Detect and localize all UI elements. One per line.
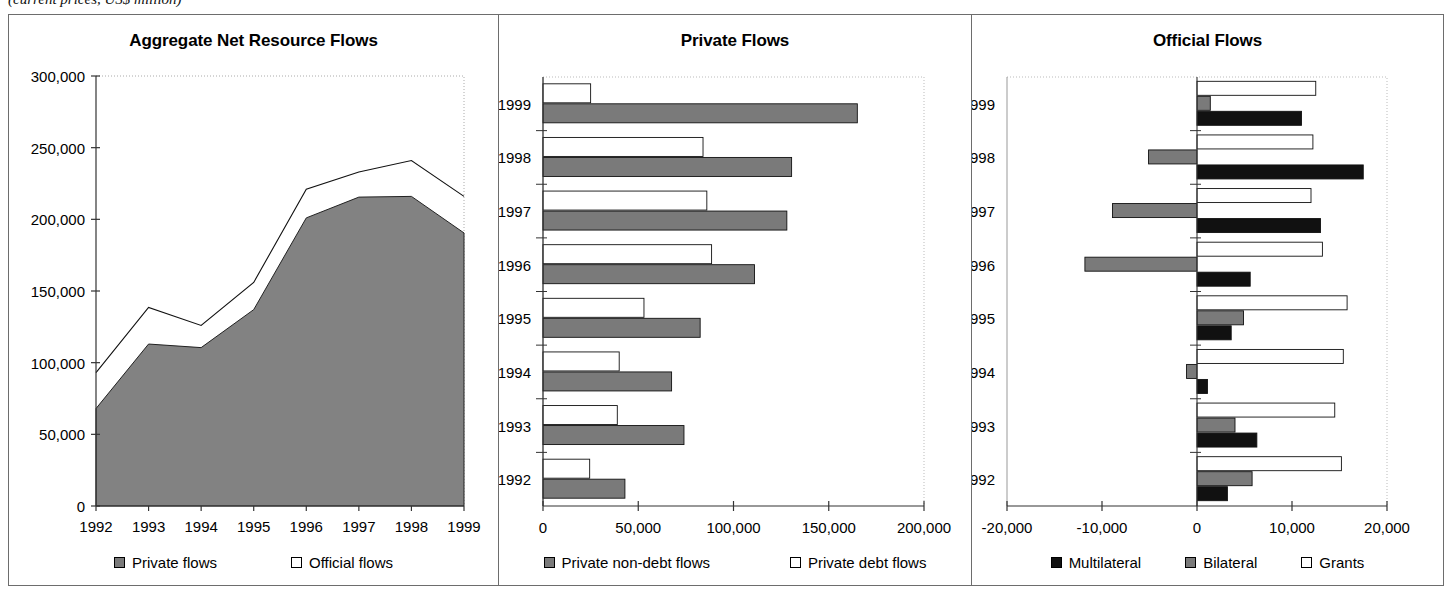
category-label: 1992 <box>499 471 531 488</box>
swatch-black-icon <box>1051 557 1062 568</box>
x-tick-label: 1999 <box>447 518 480 535</box>
legend-label: Private flows <box>132 554 217 571</box>
legend-item-bilateral: Bilateral <box>1185 554 1257 571</box>
bar-private-debt-flows <box>543 406 617 425</box>
bar-private-non-debt-flows <box>543 318 700 337</box>
bar-multilateral <box>1197 111 1302 125</box>
legend-item-private-debt-flows: Private debt flows <box>790 554 926 571</box>
bar-multilateral <box>1197 165 1363 179</box>
category-label: 1997 <box>972 203 995 220</box>
bar-multilateral <box>1197 433 1257 447</box>
bar-grants <box>1197 349 1343 363</box>
x-tick-label: 20,000 <box>1364 519 1410 536</box>
panel-aggregate-net-resource-flows: Aggregate Net Resource Flows 050,000100,… <box>8 14 498 586</box>
category-label: 1999 <box>499 96 531 113</box>
x-tick-label: 1994 <box>184 518 217 535</box>
bar-grants <box>1197 403 1335 417</box>
x-tick-label: 1996 <box>290 518 323 535</box>
bar-private-non-debt-flows <box>543 265 754 284</box>
x-tick-label: -20,000 <box>982 519 1033 536</box>
x-tick-label: 0 <box>539 519 547 536</box>
category-label: 1994 <box>972 364 995 381</box>
bar-bilateral <box>1149 150 1197 164</box>
x-tick-label: 150,000 <box>802 519 856 536</box>
chart-panels: Aggregate Net Resource Flows 050,000100,… <box>8 14 1444 586</box>
y-tick-label: 0 <box>77 498 85 515</box>
bar-private-debt-flows <box>543 137 703 156</box>
bar-multilateral <box>1197 487 1227 501</box>
bar-grants <box>1197 457 1341 471</box>
figure-page: (current prices, US$ million) Aggregate … <box>0 0 1451 589</box>
bar-private-non-debt-flows <box>543 372 672 391</box>
legend-label: Private debt flows <box>808 554 926 571</box>
bar-private-debt-flows <box>543 84 591 103</box>
category-label: 1994 <box>499 364 531 381</box>
bar-multilateral <box>1197 379 1207 393</box>
x-tick-label: 50,000 <box>615 519 661 536</box>
bar-multilateral <box>1197 219 1321 233</box>
x-tick-label: -10,000 <box>1077 519 1128 536</box>
bar-private-non-debt-flows <box>543 157 792 176</box>
x-tick-label: 100,000 <box>706 519 760 536</box>
chart-private-flows-bars: 19921993199419951996199719981999050,0001… <box>499 15 971 587</box>
y-tick-label: 250,000 <box>31 140 85 157</box>
bar-multilateral <box>1197 326 1231 340</box>
x-tick-label: 1993 <box>132 518 165 535</box>
y-tick-label: 200,000 <box>31 211 85 228</box>
bar-bilateral <box>1197 472 1252 486</box>
bar-grants <box>1197 189 1311 203</box>
legend-item-multilateral: Multilateral <box>1051 554 1142 571</box>
bar-bilateral <box>1085 257 1197 271</box>
swatch-white-icon <box>790 557 801 568</box>
y-tick-label: 100,000 <box>31 355 85 372</box>
legend-label: Official flows <box>309 554 393 571</box>
category-label: 1995 <box>499 310 531 327</box>
bar-private-non-debt-flows <box>543 426 684 445</box>
legend-2: Private non-debt flows Private debt flow… <box>499 554 971 571</box>
bar-bilateral <box>1197 418 1235 432</box>
y-tick-label: 300,000 <box>31 68 85 85</box>
category-label: 1993 <box>972 418 995 435</box>
x-tick-label: 10,000 <box>1269 519 1315 536</box>
category-label: 1993 <box>499 418 531 435</box>
category-label: 1999 <box>972 96 995 113</box>
chart-official-flows-bars: 19921993199419951996199719981999-20,000-… <box>972 15 1444 587</box>
legend-item-private-flows: Private flows <box>114 554 217 571</box>
bar-private-non-debt-flows <box>543 479 625 498</box>
chart-area-chart: 050,000100,000150,000200,000250,000300,0… <box>9 15 498 587</box>
legend-label: Private non-debt flows <box>562 554 710 571</box>
y-tick-label: 50,000 <box>39 426 85 443</box>
category-label: 1992 <box>972 471 995 488</box>
x-tick-label: 1997 <box>342 518 375 535</box>
bar-grants <box>1197 81 1316 95</box>
swatch-gray-icon <box>114 557 125 568</box>
swatch-gray-icon <box>1185 557 1196 568</box>
legend-label: Grants <box>1319 554 1364 571</box>
x-tick-label: 1995 <box>237 518 270 535</box>
panel-private-flows: Private Flows 19921993199419951996199719… <box>498 14 971 586</box>
bar-grants <box>1197 296 1347 310</box>
swatch-gray-icon <box>544 557 555 568</box>
legend-item-grants: Grants <box>1301 554 1364 571</box>
y-tick-label: 150,000 <box>31 283 85 300</box>
bar-bilateral <box>1197 311 1244 325</box>
x-tick-label: 0 <box>1193 519 1201 536</box>
x-tick-label: 1998 <box>395 518 428 535</box>
bar-bilateral <box>1197 96 1210 110</box>
x-tick-label: 200,000 <box>897 519 951 536</box>
legend-3: Multilateral Bilateral Grants <box>972 554 1443 571</box>
bar-private-debt-flows <box>543 191 707 210</box>
legend-label: Multilateral <box>1069 554 1142 571</box>
category-label: 1996 <box>499 257 531 274</box>
category-label: 1998 <box>972 149 995 166</box>
bar-bilateral <box>1112 204 1197 218</box>
swatch-white-icon <box>1301 557 1312 568</box>
category-label: 1995 <box>972 310 995 327</box>
bar-private-debt-flows <box>543 298 644 317</box>
swatch-white-icon <box>291 557 302 568</box>
bar-private-non-debt-flows <box>543 211 787 230</box>
category-label: 1998 <box>499 149 531 166</box>
legend-label: Bilateral <box>1203 554 1257 571</box>
legend-1: Private flows Official flows <box>9 554 498 571</box>
bar-private-debt-flows <box>543 245 712 264</box>
